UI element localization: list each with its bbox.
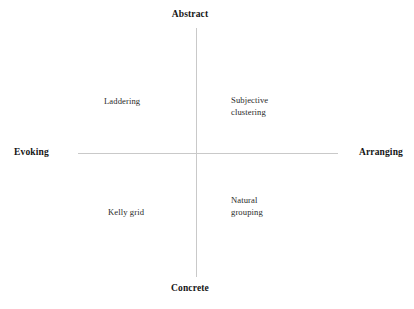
quadrant-item-subjective-clustering: Subjective clustering	[231, 95, 268, 118]
quadrant-item-natural-grouping: Natural grouping	[231, 195, 263, 218]
horizontal-axis-line	[78, 153, 338, 154]
axis-label-arranging: Arranging	[359, 147, 403, 157]
quadrant-item-laddering: Laddering	[104, 96, 140, 108]
axis-label-abstract: Abstract	[0, 9, 414, 19]
axis-label-evoking: Evoking	[14, 147, 49, 157]
quadrant-diagram: Abstract Concrete Evoking Arranging Ladd…	[0, 0, 414, 309]
quadrant-item-kelly-grid: Kelly grid	[108, 207, 144, 219]
axis-label-concrete: Concrete	[0, 283, 414, 293]
